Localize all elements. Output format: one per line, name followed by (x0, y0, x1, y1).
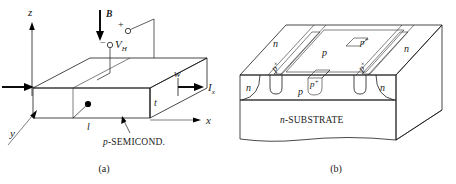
hall-voltage-label: VH (115, 38, 128, 53)
region-label-n-left-top: n (273, 38, 278, 49)
p-plus-right-strip-shape (362, 32, 408, 74)
axis-x (150, 117, 201, 122)
hall-terminal-positive (125, 19, 154, 58)
contact-label-p-plus-center: p+ (309, 78, 319, 89)
current-label: Ix (207, 81, 216, 96)
caption-b: (b) (330, 163, 342, 175)
figure-b-canvas: n n n n p p p+ p+ p+ p+ n-SUBSTRATE (b) (228, 0, 456, 184)
dimension-length-label: l (87, 121, 90, 132)
region-label-p-front: p (297, 86, 303, 97)
n-well-left-inner-top (280, 25, 326, 75)
material-label: p-SEMICOND. (102, 137, 165, 147)
carrier-leader (73, 104, 88, 118)
region-label-n-left-front: n (246, 82, 251, 93)
figure-a-canvas: z x y (0, 0, 228, 184)
chip-bottom-right-edge (396, 110, 442, 140)
substrate-label: n-SUBSTRATE (280, 115, 343, 125)
p-plus-left-tub (270, 75, 282, 94)
region-label-n-right-top: n (404, 43, 409, 54)
axis-x-label: x (205, 114, 211, 126)
chip-right-face (396, 25, 442, 140)
region-label-n-right-front: n (380, 82, 385, 93)
figure-a-hall-effect-bar: z x y (0, 0, 228, 184)
material-callout-leader (121, 116, 130, 133)
figure-b-integrated-cross-section: n n n n p p p+ p+ p+ p+ n-SUBSTRATE (b) (228, 0, 456, 184)
hall-plus-sign: + (118, 19, 124, 30)
axis-z (29, 22, 35, 96)
caption-a: (a) (98, 163, 109, 175)
axis-y-label: y (9, 127, 15, 139)
figure-page: z x y (0, 0, 456, 184)
dimension-width-label: w (174, 68, 181, 79)
contact-label-p-plus-top: p+ (359, 36, 369, 47)
n-region-left-front-boundary (242, 75, 260, 100)
hall-minus-sign: − (100, 37, 106, 48)
region-label-p-top: p (321, 47, 327, 58)
magnetic-field-label: B (105, 9, 112, 19)
p-plus-left-strip-shape (274, 32, 320, 74)
semiconductor-slab (33, 58, 207, 118)
current-out-arrow (178, 83, 204, 91)
axis-z-label: z (27, 6, 33, 18)
p-plus-right-tub (354, 75, 366, 94)
current-in-arrow (2, 83, 34, 91)
dimension-thickness-label: t (154, 97, 157, 108)
n-region-right-front-boundary (376, 75, 394, 100)
